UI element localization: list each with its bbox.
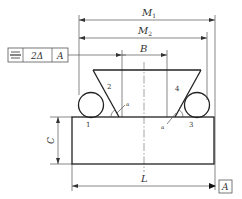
dimension-l: L <box>72 173 216 189</box>
part-2: 2 <box>107 83 111 91</box>
part-3: 3 <box>189 121 193 129</box>
part-1: 1 <box>86 121 90 129</box>
left-roller <box>79 93 104 118</box>
l-label: L <box>140 173 148 184</box>
right-roller <box>185 93 210 118</box>
part-4: 4 <box>175 85 180 93</box>
dovetail-plate <box>93 70 201 117</box>
b-label: B <box>139 43 147 54</box>
dovetail-drawing: M1 M2 B 2Δ A <box>0 0 242 199</box>
tolerance-value: 2Δ <box>30 51 43 61</box>
dimension-c: C <box>46 117 58 164</box>
datum-label: A <box>221 182 229 192</box>
dimension-m2: M2 <box>79 25 207 38</box>
part-numbers: 1 2 3 4 <box>86 83 193 129</box>
m1-label: M1 <box>141 7 156 19</box>
dimension-b: B <box>68 43 167 55</box>
m2-label: M2 <box>137 25 152 37</box>
c-label: C <box>46 137 56 144</box>
tolerance-frame: 2Δ A <box>8 48 68 62</box>
alpha-label-left: α <box>126 101 130 107</box>
tolerance-datum: A <box>56 51 64 61</box>
datum-box: A <box>219 180 232 193</box>
alpha-label-right: α <box>161 124 165 130</box>
dimension-m1: M1 <box>79 7 215 20</box>
